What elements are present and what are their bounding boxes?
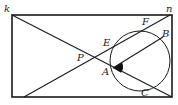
label-E: E <box>102 37 111 48</box>
label-k: k <box>4 3 10 14</box>
label-n: n <box>166 3 172 14</box>
geometry-diagram: k n F B E P A C <box>0 0 178 105</box>
label-C: C <box>141 87 149 98</box>
label-A: A <box>101 66 109 77</box>
circle <box>110 31 170 91</box>
label-P: P <box>76 52 84 63</box>
chord-AB <box>113 37 163 68</box>
label-F: F <box>141 16 150 27</box>
label-B: B <box>161 28 169 39</box>
angle-marker <box>113 63 123 73</box>
